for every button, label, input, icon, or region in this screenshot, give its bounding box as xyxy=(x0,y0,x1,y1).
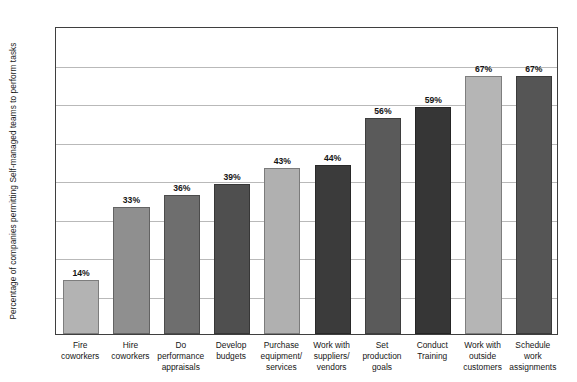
y-axis-title: Percentage of companies permitting Self-… xyxy=(8,43,18,320)
x-tick-label-line: work xyxy=(508,351,558,362)
bar-value-label: 56% xyxy=(374,106,391,116)
bar-value-label: 36% xyxy=(173,183,190,193)
y-axis-title-container: Percentage of companies permitting Self-… xyxy=(0,27,26,335)
bar-slot: 44% xyxy=(315,28,351,334)
x-tick-label: Purchaseequipment/services xyxy=(256,340,306,374)
x-tick-label: ConductTraining xyxy=(407,340,457,362)
bar-slot: 43% xyxy=(264,28,300,334)
bar-value-label: 14% xyxy=(73,268,90,278)
bars-layer: 14%33%36%39%43%44%56%59%67%67% xyxy=(56,28,557,334)
x-tick-label: Setproductiongoals xyxy=(357,340,407,374)
x-tick-label-line: production xyxy=(357,351,407,362)
plot-area: 14%33%36%39%43%44%56%59%67%67% xyxy=(55,27,558,335)
bar-chart: Percentage of companies permitting Self-… xyxy=(0,0,577,382)
x-tick-label-line: coworkers xyxy=(105,351,155,362)
bar[interactable] xyxy=(315,165,351,334)
bar-value-label: 33% xyxy=(123,195,140,205)
x-tick-label-line: equipment/ xyxy=(256,351,306,362)
x-tick-label: Scheduleworkassignments xyxy=(508,340,558,374)
bar-value-label: 67% xyxy=(525,64,542,74)
bar-slot: 67% xyxy=(516,28,552,334)
bar[interactable] xyxy=(365,118,401,334)
bar-value-label: 67% xyxy=(475,64,492,74)
x-tick-label-line: Purchase xyxy=(256,340,306,351)
bar[interactable] xyxy=(264,168,300,334)
x-tick-label-line: Schedule xyxy=(508,340,558,351)
bar-slot: 39% xyxy=(214,28,250,334)
bar-slot: 33% xyxy=(113,28,149,334)
x-tick-label-line: Do xyxy=(156,340,206,351)
x-axis-tick-labels: FirecoworkersHirecoworkersDoperformancea… xyxy=(55,340,558,382)
bar[interactable] xyxy=(465,76,501,334)
bar-value-label: 43% xyxy=(274,156,291,166)
bar[interactable] xyxy=(214,184,250,334)
x-tick-label-line: goals xyxy=(357,362,407,373)
x-tick-label-line: assignments xyxy=(508,362,558,373)
x-tick-label-line: customers xyxy=(457,362,507,373)
bar-value-label: 44% xyxy=(324,153,341,163)
x-tick-label: Doperformanceappraisals xyxy=(156,340,206,374)
bar-value-label: 39% xyxy=(223,172,240,182)
x-tick-label-line: Fire xyxy=(55,340,105,351)
x-tick-label-line: Hire xyxy=(105,340,155,351)
x-tick-label-line: Work with xyxy=(307,340,357,351)
bar[interactable] xyxy=(164,195,200,334)
x-tick-label-line: Training xyxy=(407,351,457,362)
x-tick-label-line: Work with xyxy=(457,340,507,351)
x-tick-label-line: services xyxy=(256,362,306,373)
x-tick-label-line: budgets xyxy=(206,351,256,362)
bar[interactable] xyxy=(415,107,451,334)
x-tick-label-line: outside xyxy=(457,351,507,362)
x-tick-label-line: Conduct xyxy=(407,340,457,351)
bar-slot: 67% xyxy=(465,28,501,334)
x-tick-label: Work withsuppliers/vendors xyxy=(307,340,357,374)
bar[interactable] xyxy=(113,207,149,334)
bar-slot: 36% xyxy=(164,28,200,334)
bar-slot: 14% xyxy=(63,28,99,334)
x-tick-label-line: performance xyxy=(156,351,206,362)
x-tick-label: Work withoutsidecustomers xyxy=(457,340,507,374)
x-tick-label-line: vendors xyxy=(307,362,357,373)
bar[interactable] xyxy=(63,280,99,334)
bar[interactable] xyxy=(516,76,552,334)
x-tick-label: Firecoworkers xyxy=(55,340,105,362)
x-tick-label-line: Develop xyxy=(206,340,256,351)
bar-slot: 56% xyxy=(365,28,401,334)
bar-value-label: 59% xyxy=(425,95,442,105)
x-tick-label: Hirecoworkers xyxy=(105,340,155,362)
x-tick-label-line: Set xyxy=(357,340,407,351)
x-tick-label: Developbudgets xyxy=(206,340,256,362)
x-tick-label-line: appraisals xyxy=(156,362,206,373)
x-tick-label-line: coworkers xyxy=(55,351,105,362)
x-tick-label-line: suppliers/ xyxy=(307,351,357,362)
bar-slot: 59% xyxy=(415,28,451,334)
